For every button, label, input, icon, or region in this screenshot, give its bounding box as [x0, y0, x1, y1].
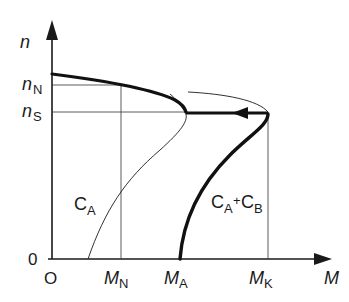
MA-label: M A: [164, 268, 188, 291]
svg-text:A: A: [179, 276, 188, 291]
svg-text:K: K: [264, 276, 273, 291]
nN-label: n N: [22, 74, 42, 97]
svg-text:M: M: [249, 268, 264, 288]
y-axis-label: n: [20, 32, 30, 52]
x-axis-arrow-icon: [314, 253, 332, 265]
svg-text:M: M: [164, 268, 179, 288]
svg-text:C: C: [241, 192, 254, 212]
operating-curve-top: [52, 74, 186, 112]
torque-speed-diagram: n M O 0 n N n S M N M A M K C A C A + C …: [0, 0, 349, 302]
svg-text:B: B: [254, 201, 263, 216]
svg-text:+: +: [233, 193, 241, 208]
svg-text:A: A: [87, 203, 96, 218]
y-axis-arrow-icon: [46, 20, 58, 40]
svg-text:C: C: [74, 194, 87, 214]
svg-text:N: N: [33, 82, 42, 97]
operating-curve-CAB: [180, 114, 268, 259]
svg-text:N: N: [119, 276, 128, 291]
curve-CA: [88, 94, 186, 259]
curve-CAB-upper: [188, 92, 268, 112]
x-axis-label: M: [324, 268, 339, 288]
svg-text:n: n: [22, 101, 32, 121]
svg-text:A: A: [224, 201, 233, 216]
curve-CAB-label: C A + C B: [211, 192, 263, 216]
transition-arrow-icon: [232, 107, 248, 119]
curve-CA-label: C A: [74, 194, 96, 218]
origin-y-label: 0: [28, 250, 37, 269]
MN-label: M N: [104, 268, 128, 291]
svg-text:C: C: [211, 192, 224, 212]
origin-x-label: O: [44, 269, 57, 288]
svg-text:n: n: [22, 74, 32, 94]
nS-label: n S: [22, 101, 42, 124]
MK-label: M K: [249, 268, 273, 291]
svg-text:S: S: [33, 109, 42, 124]
svg-text:M: M: [104, 268, 119, 288]
